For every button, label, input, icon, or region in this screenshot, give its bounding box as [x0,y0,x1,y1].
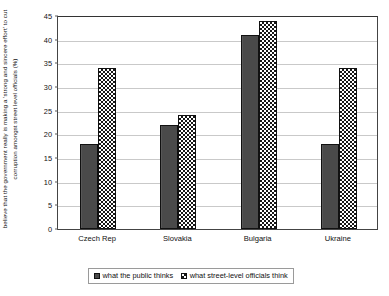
y-axis-tick-45: 45 [44,12,52,21]
bar [178,115,196,229]
bar-group-ukraine [321,17,357,229]
y-axis-tick-40: 40 [44,35,52,44]
y-axis-tickmark-40 [55,39,58,40]
bar [339,68,357,229]
legend-item-officials: what street-level officials think [181,271,288,280]
bar [98,68,116,229]
y-axis-tick-0: 0 [48,225,52,234]
bar-group-bulgaria [241,17,277,229]
y-axis-tickmark-45 [55,16,58,17]
legend-swatch-dotted-icon [181,273,187,279]
y-axis-tickmark-20 [55,134,58,135]
x-axis-tick-labels: Czech RepSlovakiaBulgariaUkraine [57,234,378,250]
y-axis-tick-25: 25 [44,106,52,115]
legend-swatch-solid-icon [94,273,100,279]
y-axis-tickmark-15 [55,158,58,159]
x-axis-label-bulgaria: Bulgaria [244,234,272,243]
y-axis-tick-30: 30 [44,83,52,92]
x-axis-label-ukraine: Ukraine [325,234,351,243]
y-axis-tickmark-25 [55,110,58,111]
y-axis-title: believe that the government really is ma… [0,0,19,238]
y-axis-tick-5: 5 [48,201,52,210]
y-axis-tickmark-10 [55,181,58,182]
y-axis-tick-15: 15 [44,154,52,163]
x-axis-label-slovakia: Slovakia [163,234,192,243]
y-axis-tickmark-30 [55,87,58,88]
bar-group-czech-rep [80,17,116,229]
y-axis-tick-35: 35 [44,59,52,68]
bar [241,35,259,229]
bar [259,21,277,229]
legend-item-public: what the public thinks [94,271,173,280]
y-axis-tick-20: 20 [44,130,52,139]
bar [321,144,339,229]
plot-area [57,16,378,230]
y-axis-tickmark-5 [55,205,58,206]
y-axis-title-container: believe that the government really is ma… [0,0,34,240]
legend-label-officials: what street-level officials think [190,271,288,280]
bar [160,125,178,229]
bar-group-slovakia [160,17,196,229]
y-axis-tickmark-0 [55,229,58,230]
chart-legend: what the public thinks what street-level… [88,268,294,284]
y-axis-tickmark-35 [55,63,58,64]
x-axis-label-czech-rep: Czech Rep [78,234,116,243]
y-axis-tick-labels: 051015202530354045 [34,16,55,230]
bar [80,144,98,229]
y-axis-tick-10: 10 [44,177,52,186]
legend-label-public: what the public thinks [103,271,174,280]
